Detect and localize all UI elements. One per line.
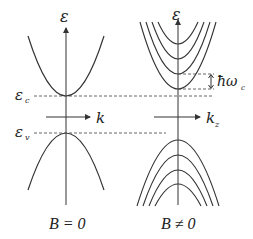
conduction-edge-subscript: c: [25, 96, 30, 105]
right-energy-axis-label: ε: [172, 5, 181, 24]
conduction-edge-label: ε: [15, 86, 23, 104]
cyclotron-energy-subscript: c: [241, 84, 245, 92]
left-energy-axis-label: ε: [60, 7, 69, 26]
cyclotron-energy-label: ħω: [217, 73, 238, 89]
landau-spacing-double-arrow: [209, 75, 214, 89]
left-caption: B = 0: [49, 215, 86, 232]
right-panel: ε k z ħω c B ≠ 0: [137, 5, 245, 232]
left-panel: ε k ε c ε v B = 0: [15, 7, 214, 232]
right-caption: B ≠ 0: [161, 215, 196, 232]
valence-edge-label: ε: [15, 123, 23, 141]
left-momentum-axis-label: k: [96, 109, 105, 127]
right-momentum-axis-subscript: z: [214, 120, 220, 129]
right-momentum-axis-label: k: [206, 109, 215, 127]
valence-edge-subscript: v: [25, 133, 30, 142]
band-diagram: ε k ε c ε v B = 0 ε k z ħω c: [0, 0, 253, 239]
